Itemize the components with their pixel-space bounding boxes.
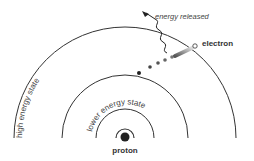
proton-label: proton [112,146,137,155]
lower-energy-label: lower energy state [85,97,147,132]
energy-released-label: energy released [155,12,210,21]
electron-low [137,71,141,75]
trail-dot [156,61,160,65]
electron-high [193,44,197,48]
proton-dot [121,133,130,142]
atom-energy-diagram: proton high energy state lower energy st… [0,0,254,161]
arrowhead-icon [142,11,149,17]
electron-label: electron [202,39,233,48]
trail-dot [163,58,167,62]
high-energy-label: high energy state [15,76,42,138]
trail-blur [175,48,192,56]
trail-dot [148,65,152,69]
